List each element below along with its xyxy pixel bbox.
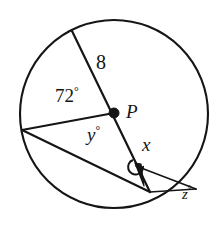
label-angle-y: y°	[87, 125, 100, 144]
label-angle-x: x	[142, 135, 150, 154]
label-angle-72-value: 72	[55, 85, 74, 106]
label-center-p: P	[126, 102, 138, 121]
geometry-figure: 8 72° P y° x z°	[0, 0, 221, 234]
degree-symbol-y: °	[95, 124, 100, 137]
label-angle-72: 72°	[55, 86, 79, 105]
center-point-dot	[109, 108, 119, 118]
label-angle-z: z°	[182, 186, 192, 202]
label-length-8: 8	[96, 52, 106, 72]
degree-symbol-z: °	[188, 185, 192, 195]
degree-symbol-72: °	[74, 85, 79, 98]
